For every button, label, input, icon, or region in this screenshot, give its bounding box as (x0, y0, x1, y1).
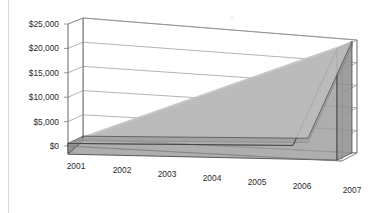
x-tick-label: 2006 (293, 181, 312, 191)
y-tick-label: $5,000 (33, 117, 59, 127)
y-tick-label: $15,000 (29, 68, 60, 78)
y-tick-label: $10,000 (29, 92, 60, 102)
plot-left-wall (68, 18, 83, 146)
y-axis-labels: $25,000 $20,000 $15,000 $10,000 $5,000 $… (29, 19, 60, 151)
x-tick-label: 2004 (203, 173, 222, 183)
y-tick-label: $25,000 (29, 19, 60, 29)
area-chart-3d: $25,000 $20,000 $15,000 $10,000 $5,000 $… (0, 0, 384, 213)
x-tick-label: 2005 (248, 177, 267, 187)
x-tick-label: 2001 (67, 161, 86, 171)
y-axis-ticks (64, 24, 68, 146)
x-tick-label: 2002 (113, 165, 132, 175)
y-tick-label: $0 (50, 141, 60, 151)
x-tick-label: 2003 (158, 169, 177, 179)
x-tick-label: 2007 (343, 185, 362, 195)
chart-container: $25,000 $20,000 $15,000 $10,000 $5,000 $… (0, 0, 384, 213)
x-axis-labels: 2001 2002 2003 2004 2005 2006 2007 (67, 161, 362, 195)
y-tick-label: $20,000 (29, 43, 60, 53)
